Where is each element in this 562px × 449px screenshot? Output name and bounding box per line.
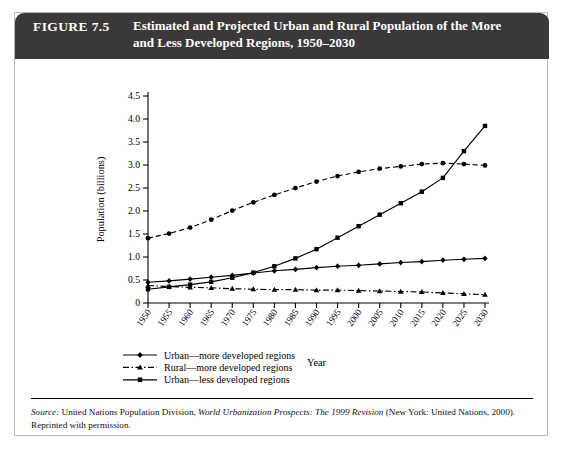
source-divider [31,398,533,399]
x-axis-tick-label: 1970 [219,307,238,328]
data-point-marker [230,208,235,213]
data-point-marker [356,224,360,228]
data-point-marker [462,162,467,167]
data-point-marker [209,274,214,280]
x-axis-tick-label: 2030 [471,307,490,328]
figure-container: FIGURE 7.5 Estimated and Projected Urban… [14,12,548,436]
data-point-marker [272,193,277,198]
data-point-marker [377,212,381,216]
data-point-marker [314,179,319,184]
data-point-marker [272,264,276,268]
x-axis-tick-label: 1955 [155,307,174,328]
y-axis-tick-label: 0.5 [128,274,140,285]
data-point-marker [209,217,214,222]
data-point-marker [461,256,466,262]
data-point-marker [462,149,466,153]
data-point-marker [335,263,340,269]
data-point-marker [138,378,143,383]
x-axis-tick-label: 1995 [324,307,343,328]
x-axis-tick-label: 1990 [303,307,322,328]
data-point-marker [398,164,403,169]
data-point-marker [251,200,256,205]
y-axis-tick-label: 1.0 [128,251,140,262]
legend-label: Rural—more developed regions [164,362,292,373]
x-axis-tick-label: 1950 [134,307,153,328]
data-point-marker [335,235,339,239]
figure-title: Estimated and Projected Urban and Rural … [133,18,535,51]
data-point-marker [441,176,445,180]
data-point-marker [293,186,298,191]
data-point-marker [441,161,446,166]
data-point-marker [230,276,234,280]
data-point-marker [356,262,361,268]
data-point-marker [188,276,193,282]
figure-title-line-1: Estimated and Projected Urban and Rural … [133,18,501,33]
legend-item-2: Rural—more developed regions [123,362,292,373]
data-point-marker [229,286,235,291]
data-point-marker [146,236,151,241]
y-axis-tick-label: 2.5 [128,182,140,193]
data-point-marker [377,166,382,171]
y-axis-tick-label: 3.0 [128,159,140,170]
x-axis-tick-label: 1980 [261,307,280,328]
source-text-before: United Nations Population Division, [59,407,198,417]
y-axis-tick-label: 4.0 [128,113,140,124]
data-point-marker [419,259,424,265]
data-point-marker [188,225,193,230]
x-axis-tick-label: 2010 [387,307,406,328]
source-label: Source: [31,407,59,417]
x-axis-tick-label: 1960 [177,307,196,328]
data-point-marker [377,261,382,267]
line-chart: 00.51.01.52.02.53.03.54.04.5Population (… [15,59,549,389]
chart-plot-area: 00.51.01.52.02.53.03.54.04.5Population (… [15,59,549,389]
data-point-marker [440,257,445,263]
data-point-marker [293,267,298,273]
source-note: Source: United Nations Population Divisi… [31,406,535,431]
x-axis-tick-label: 2025 [450,307,469,328]
data-point-marker [167,231,172,236]
x-axis-tick-label: 2005 [366,307,385,328]
legend-item-4: Rural—less developed regions [123,387,287,389]
data-point-marker [314,247,318,251]
data-point-marker [293,256,297,260]
legend-label: Rural—less developed regions [164,387,287,389]
legend-label: Urban—less developed regions [164,374,290,385]
y-axis-tick-label: 3.5 [128,136,140,147]
source-publication-title: World Urbanization Prospects: The 1999 R… [198,407,383,417]
data-point-marker [166,278,171,284]
data-point-marker [146,287,150,291]
series-1 [145,256,487,286]
x-axis-tick-label: 1975 [240,307,259,328]
legend-label: Urban—more developed regions [164,350,295,361]
figure-header: FIGURE 7.5 Estimated and Projected Urban… [15,13,549,59]
data-point-marker [335,174,340,179]
data-point-marker [482,292,488,297]
legend-item-1: Urban—more developed regions [123,350,295,361]
x-axis-tick-label: 1965 [198,307,217,328]
data-point-marker [314,265,319,271]
data-point-marker [209,280,213,284]
data-point-marker [399,201,403,205]
data-point-marker [167,285,171,289]
x-axis-title: Year [307,357,327,368]
data-point-marker [482,256,487,262]
series-2 [145,283,488,297]
data-point-marker [356,170,361,175]
series-line [148,163,485,238]
x-axis-tick-label: 2015 [408,307,427,328]
data-point-marker [188,282,192,286]
figure-number: FIGURE 7.5 [33,19,110,35]
data-point-marker [293,287,299,292]
figure-title-line-2: and Less Developed Regions, 1950–2030 [133,35,355,50]
data-point-marker [419,162,424,167]
y-axis-tick-label: 0 [135,297,140,308]
y-axis-tick-label: 2.0 [128,205,140,216]
x-axis-tick-label: 2020 [429,307,448,328]
y-axis-title: Population (billions) [95,157,107,243]
data-point-marker [420,189,424,193]
x-axis-tick-label: 2000 [345,307,364,328]
x-axis-tick-label: 1985 [282,307,301,328]
data-point-marker [483,163,488,168]
y-axis-tick-label: 4.5 [128,90,140,101]
legend-item-3: Urban—less developed regions [123,374,290,385]
